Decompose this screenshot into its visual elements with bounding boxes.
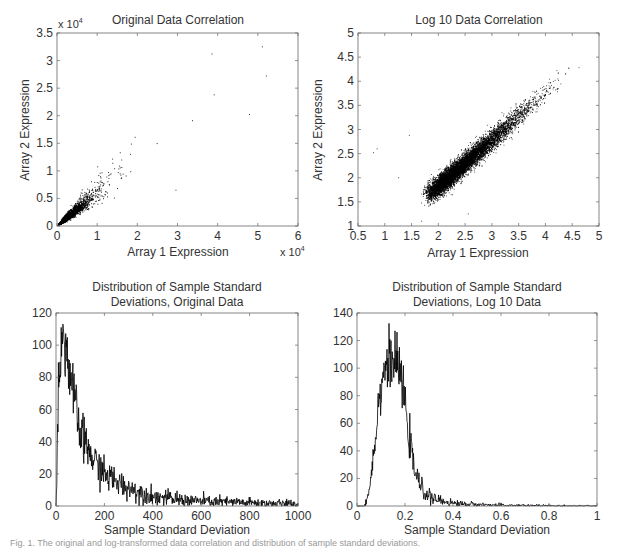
svg-text:60: 60	[39, 403, 53, 417]
svg-text:1: 1	[594, 509, 601, 523]
scatter-points	[58, 47, 267, 226]
svg-text:3: 3	[489, 229, 496, 243]
svg-text:0: 0	[53, 509, 60, 523]
svg-text:3.5: 3.5	[36, 26, 53, 40]
svg-text:0: 0	[46, 219, 53, 233]
svg-text:3.5: 3.5	[337, 98, 354, 112]
svg-text:0.4: 0.4	[445, 509, 462, 523]
svg-text:1: 1	[381, 229, 388, 243]
svg-text:100: 100	[32, 338, 52, 352]
y-axis-label: Array 2 Expression	[311, 79, 325, 180]
svg-text:0.8: 0.8	[541, 509, 558, 523]
svg-text:5: 5	[347, 26, 354, 40]
svg-text:120: 120	[333, 334, 353, 348]
axis-ticks: 00.20.40.60.81020406080100120140	[333, 306, 601, 523]
svg-text:800: 800	[240, 509, 260, 523]
axes-box	[56, 313, 298, 506]
svg-text:4: 4	[214, 229, 221, 243]
plot-sd-log: Distribution of Sample Standard Deviatio…	[333, 280, 601, 537]
svg-text:2: 2	[134, 229, 141, 243]
plot-title-line-2: Deviations, Original Data	[111, 295, 244, 309]
svg-text:40: 40	[340, 444, 354, 458]
svg-text:1: 1	[94, 229, 101, 243]
svg-text:2: 2	[347, 171, 354, 185]
svg-text:1.5: 1.5	[337, 195, 354, 209]
figure-caption: Fig. 1. The original and log-transformed…	[10, 538, 610, 550]
svg-text:120: 120	[32, 306, 52, 320]
svg-text:200: 200	[94, 509, 114, 523]
plot-title: Original Data Correlation	[112, 13, 244, 27]
svg-text:0.2: 0.2	[397, 509, 414, 523]
svg-text:3: 3	[46, 54, 53, 68]
svg-text:4.5: 4.5	[337, 50, 354, 64]
svg-text:4: 4	[542, 229, 549, 243]
plot-log-correlation: Log 10 Data Correlation 0.511.522.533.54…	[311, 13, 603, 260]
svg-text:5: 5	[254, 229, 261, 243]
svg-text:4: 4	[347, 74, 354, 88]
plot-title: Log 10 Data Correlation	[415, 13, 542, 27]
svg-text:100: 100	[333, 361, 353, 375]
x-axis-label: Array 1 Expression	[127, 245, 228, 259]
svg-text:1.5: 1.5	[36, 136, 53, 150]
y-axis-label: Array 2 Expression	[18, 79, 32, 180]
svg-text:80: 80	[39, 370, 53, 384]
svg-text:3: 3	[347, 123, 354, 137]
svg-text:40: 40	[39, 435, 53, 449]
plot-original-correlation: Original Data Correlation x 104 01234560…	[18, 13, 305, 259]
axis-ticks: 0.511.522.533.544.5511.522.533.544.55	[337, 26, 602, 243]
svg-text:1000: 1000	[285, 509, 312, 523]
svg-text:1: 1	[347, 219, 354, 233]
plot-sd-original: Distribution of Sample Standard Deviatio…	[32, 280, 312, 537]
svg-text:6: 6	[295, 229, 302, 243]
svg-text:400: 400	[143, 509, 163, 523]
x-axis-label: Array 1 Expression	[427, 246, 528, 260]
axes-box	[358, 33, 599, 226]
svg-text:0: 0	[354, 509, 361, 523]
svg-text:3.5: 3.5	[510, 229, 527, 243]
x-axis-label: Sample Standard Deviation	[404, 523, 550, 537]
scatter-points	[373, 68, 579, 222]
svg-text:1.5: 1.5	[403, 229, 420, 243]
histogram-line	[56, 324, 298, 506]
svg-text:4.5: 4.5	[564, 229, 581, 243]
svg-text:0: 0	[346, 499, 353, 513]
svg-text:80: 80	[340, 389, 354, 403]
svg-text:60: 60	[340, 416, 354, 430]
svg-text:20: 20	[340, 471, 354, 485]
svg-text:0.6: 0.6	[493, 509, 510, 523]
svg-text:2: 2	[46, 109, 53, 123]
svg-text:140: 140	[333, 306, 353, 320]
svg-text:2.5: 2.5	[457, 229, 474, 243]
figure-canvas: Original Data Correlation x 104 01234560…	[0, 0, 618, 550]
svg-text:2: 2	[435, 229, 442, 243]
svg-text:0.5: 0.5	[36, 191, 53, 205]
histogram-line	[357, 323, 597, 506]
svg-text:2.5: 2.5	[36, 81, 53, 95]
y-multiplier: x 104	[58, 17, 83, 30]
plot-title-line-1: Distribution of Sample Standard	[92, 280, 261, 294]
x-multiplier: x 104	[280, 245, 305, 258]
svg-text:0: 0	[45, 499, 52, 513]
plot-title-line-1: Distribution of Sample Standard	[392, 280, 561, 294]
svg-text:600: 600	[191, 509, 211, 523]
svg-text:0: 0	[54, 229, 61, 243]
svg-text:5: 5	[596, 229, 603, 243]
plot-title-line-2: Deviations, Log 10 Data	[413, 295, 541, 309]
svg-text:20: 20	[39, 467, 53, 481]
svg-text:2.5: 2.5	[337, 147, 354, 161]
axis-ticks: 02004006008001000020406080100120	[32, 306, 312, 523]
svg-text:1: 1	[46, 164, 53, 178]
axes-box	[357, 313, 597, 506]
x-axis-label: Sample Standard Deviation	[104, 523, 250, 537]
svg-text:3: 3	[174, 229, 181, 243]
